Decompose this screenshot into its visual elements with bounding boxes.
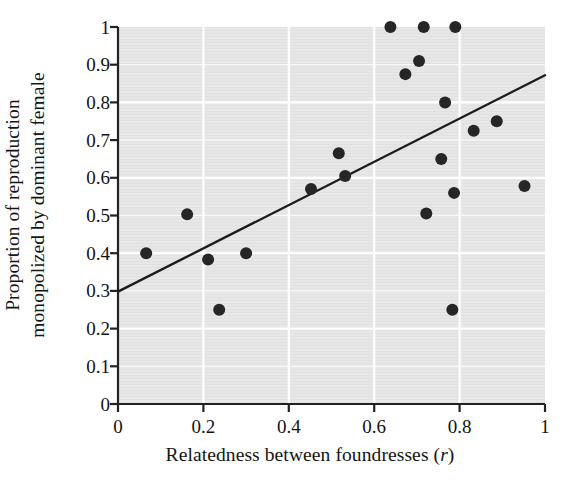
data-point bbox=[449, 21, 461, 33]
data-point bbox=[519, 180, 531, 192]
data-point bbox=[305, 183, 317, 195]
data-point bbox=[202, 254, 214, 266]
data-point bbox=[413, 55, 425, 67]
data-point bbox=[213, 304, 225, 316]
data-point bbox=[435, 153, 447, 165]
data-point bbox=[399, 68, 411, 80]
data-point bbox=[240, 247, 252, 259]
scatter-plot-figure: Proportion of reproduction monopolized b… bbox=[0, 0, 584, 483]
data-point bbox=[333, 147, 345, 159]
data-point bbox=[418, 21, 430, 33]
data-point bbox=[140, 247, 152, 259]
data-point bbox=[468, 125, 480, 137]
data-point bbox=[384, 21, 396, 33]
data-point bbox=[181, 208, 193, 220]
data-point bbox=[420, 208, 432, 220]
data-point bbox=[448, 187, 460, 199]
data-point bbox=[439, 96, 451, 108]
data-point bbox=[491, 115, 503, 127]
plot-canvas bbox=[0, 0, 584, 483]
data-point bbox=[446, 304, 458, 316]
data-point bbox=[339, 170, 351, 182]
